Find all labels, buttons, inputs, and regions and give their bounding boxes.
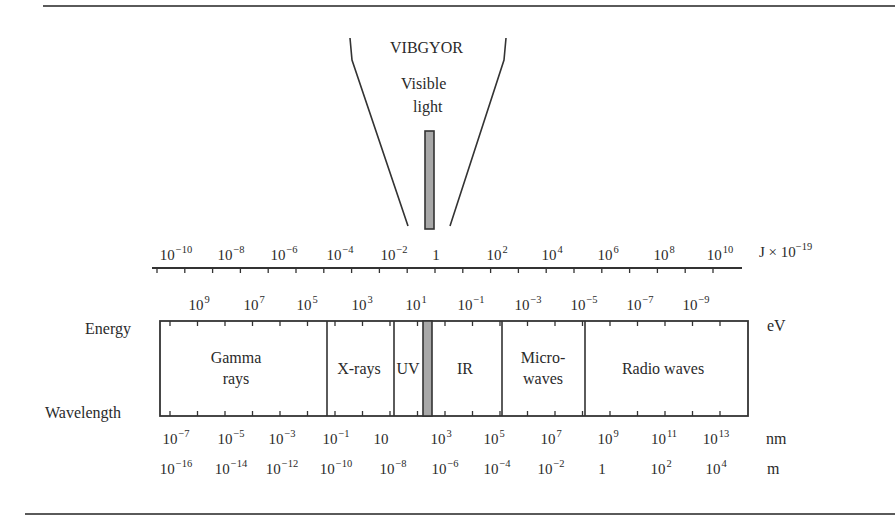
joule-tick-label-base: 1: [432, 247, 440, 263]
region-label: Gammarays: [211, 348, 262, 390]
joule-tick-label-exponent: −8: [233, 244, 244, 255]
m-unit-label: m: [767, 461, 779, 477]
nm-tick-label-base: 10: [268, 431, 283, 447]
visible-label-line1: Visible: [401, 76, 446, 92]
m-tick-label-base: 10: [320, 461, 335, 477]
ev-tick-label-base: 10: [514, 297, 529, 313]
nm-tick-label-exponent: 3: [446, 428, 451, 439]
joule-tick-label: 102: [486, 248, 507, 263]
region-label-line1: Micro-: [521, 348, 565, 369]
joule-tick-label-base: 10: [653, 247, 668, 263]
nm-tick-label-exponent: −5: [233, 428, 244, 439]
region-label-line1: IR: [457, 359, 473, 380]
joule-tick-label-base: 10: [541, 247, 556, 263]
ev-tick-label-exponent: 5: [312, 294, 317, 305]
m-tick-label-base: 10: [705, 461, 720, 477]
m-tick-label-base: 10: [379, 461, 394, 477]
joule-tick-label: 1010: [707, 248, 734, 263]
vibgyor-label: VIBGYOR: [390, 40, 463, 56]
joule-tick-label-base: 10: [380, 247, 395, 263]
m-tick-label: 104: [705, 462, 726, 477]
joule-tick-label-base: 10: [326, 247, 341, 263]
nm-tick-label: 10−5: [217, 432, 244, 447]
nm-tick-label-exponent: −7: [178, 428, 189, 439]
energy-row-label: Energy: [85, 321, 131, 337]
ev-tick-label-base: 10: [682, 297, 697, 313]
ev-tick-label: 103: [351, 298, 372, 313]
m-tick-label-base: 10: [650, 461, 665, 477]
ev-tick-label-base: 10: [405, 297, 420, 313]
joule-tick-label: 104: [541, 248, 562, 263]
joule-tick-label: 10−4: [326, 248, 353, 263]
m-tick-label: 10−6: [431, 462, 458, 477]
nm-tick-label-base: 10: [162, 431, 177, 447]
region-label-line1: UV: [396, 359, 419, 380]
m-tick-label-base: 10: [483, 461, 498, 477]
nm-tick-label-exponent: 11: [667, 428, 677, 439]
m-tick-label-base: 10: [266, 461, 281, 477]
m-tick-label-exponent: −14: [231, 458, 247, 469]
funnel-left-edge: [350, 38, 408, 226]
joule-tick-label-exponent: 8: [669, 244, 674, 255]
visible-band: [423, 321, 432, 416]
nm-tick-label: 103: [430, 432, 451, 447]
joule-tick-label: 10−10: [160, 248, 192, 263]
joule-tick-label-base: 10: [597, 247, 612, 263]
joule-tick-label-exponent: 10: [723, 244, 734, 255]
nm-tick-label: 105: [483, 432, 504, 447]
joule-tick-label: 1: [432, 248, 440, 263]
nm-tick-label-base: 10: [597, 431, 612, 447]
ev-tick-label-exponent: 9: [204, 294, 209, 305]
funnel-right-edge: [450, 38, 506, 226]
m-tick-label-base: 10: [215, 461, 230, 477]
nm-tick-label-base: 10: [651, 431, 666, 447]
ev-tick-label-exponent: −5: [586, 294, 597, 305]
ev-tick-label: 10−7: [626, 298, 653, 313]
m-tick-label-exponent: −10: [336, 458, 352, 469]
m-tick-label-base: 10: [431, 461, 446, 477]
ev-unit-label: eV: [767, 318, 786, 334]
nm-tick-label-base: 10: [540, 431, 555, 447]
m-tick-label-base: 1: [598, 461, 606, 477]
nm-unit-label: nm: [766, 431, 786, 447]
region-label-line2: rays: [211, 369, 262, 390]
joule-tick-label-exponent: −6: [286, 244, 297, 255]
nm-tick-label: 10: [374, 432, 389, 447]
region-label-line1: Radio waves: [622, 359, 704, 380]
ev-tick-label-base: 10: [626, 297, 641, 313]
wavelength-row-label: Wavelength: [45, 405, 121, 421]
m-tick-label-base: 10: [160, 461, 175, 477]
ev-tick-label-exponent: 1: [421, 294, 426, 305]
ev-tick-label: 105: [296, 298, 317, 313]
ev-tick-label-base: 10: [351, 297, 366, 313]
m-tick-label: 1: [598, 462, 606, 477]
m-tick-label-exponent: −16: [176, 458, 192, 469]
nm-tick-label-exponent: −3: [284, 428, 295, 439]
ev-tick-label: 10−9: [682, 298, 709, 313]
m-tick-label-exponent: 2: [666, 458, 671, 469]
joule-tick-label-exponent: 2: [502, 244, 507, 255]
region-label: X-rays: [337, 359, 381, 380]
m-tick-label-exponent: −8: [395, 458, 406, 469]
region-label: Micro-waves: [521, 348, 565, 390]
ev-tick-label-base: 10: [188, 297, 203, 313]
nm-tick-label: 1011: [651, 432, 677, 447]
nm-tick-label-exponent: 5: [499, 428, 504, 439]
ev-tick-label-exponent: −9: [698, 294, 709, 305]
nm-tick-label-base: 10: [217, 431, 232, 447]
m-tick-label: 10−10: [320, 462, 352, 477]
joule-tick-label-exponent: 6: [613, 244, 618, 255]
ev-tick-label-base: 10: [243, 297, 258, 313]
m-tick-label: 10−8: [379, 462, 406, 477]
nm-tick-label: 10−1: [322, 432, 349, 447]
joule-tick-label: 10−2: [380, 248, 407, 263]
m-tick-label: 10−16: [160, 462, 192, 477]
ev-tick-label-base: 10: [457, 297, 472, 313]
nm-tick-label-base: 10: [483, 431, 498, 447]
nm-tick-label-base: 10: [322, 431, 337, 447]
m-tick-label: 10−4: [483, 462, 510, 477]
region-label-line1: Gamma: [211, 348, 262, 369]
joule-tick-label: 10−8: [217, 248, 244, 263]
ev-tick-label-exponent: −7: [642, 294, 653, 305]
ev-tick-label-exponent: 7: [259, 294, 264, 305]
